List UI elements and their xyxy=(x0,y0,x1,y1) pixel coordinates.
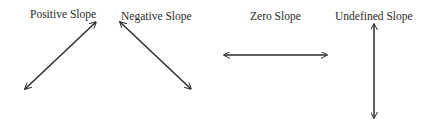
positive-slope-arrow xyxy=(25,22,96,89)
slope-diagram xyxy=(0,0,429,123)
negative-slope-arrow xyxy=(120,22,191,89)
